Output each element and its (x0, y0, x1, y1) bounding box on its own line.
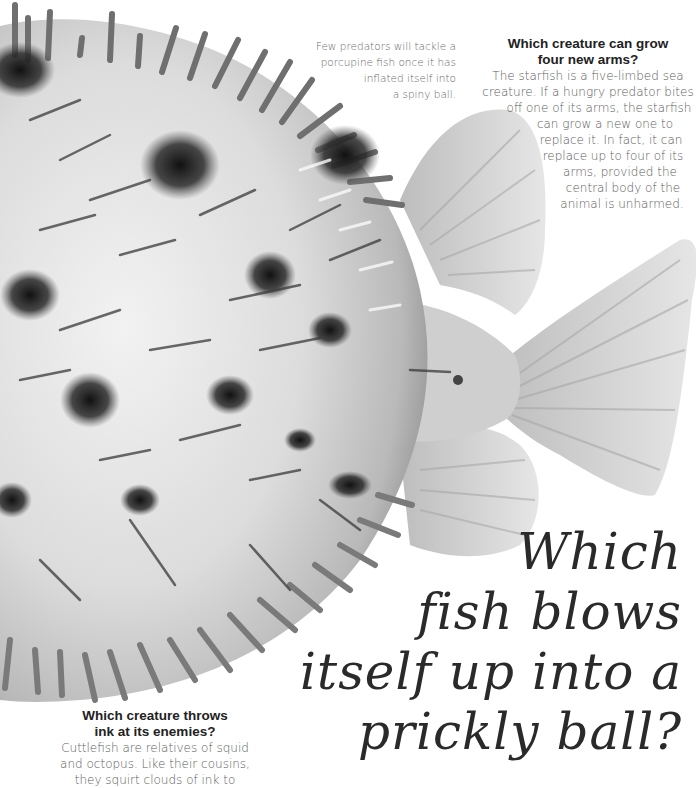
caption-line: porcupine fish once it has (300, 54, 456, 70)
caption-line: inflated itself into (300, 70, 456, 86)
body-line: central body of the (552, 180, 694, 196)
heading-line: ink at its enemies? (30, 724, 280, 740)
illustration-caption: Few predators will tackle a porcupine fi… (300, 38, 456, 102)
body-line: and octopus. Like their cousins, (30, 756, 280, 772)
caption-line: a spiny ball. (300, 86, 456, 102)
qa-cuttlefish-body: Cuttlefish are relatives of squid and oc… (30, 740, 280, 788)
heading-line: Which creature throws (30, 708, 280, 724)
body-line: off one of its arms, the starfish (502, 100, 696, 116)
main-title-line: Which (242, 522, 682, 582)
body-line: arms, provided the (550, 164, 690, 180)
main-title-line: itself up into a (242, 642, 682, 702)
body-line: can grow a new one to (520, 116, 690, 132)
qa-starfish: Which creature can grow four new arms? T… (480, 36, 696, 212)
heading-line: four new arms? (480, 52, 696, 68)
qa-cuttlefish: Which creature throws ink at its enemies… (30, 708, 280, 788)
body-line: they squirt clouds of ink to (30, 772, 280, 788)
main-title: Which fish blows itself up into a prickl… (242, 522, 682, 762)
qa-cuttlefish-heading: Which creature throws ink at its enemies… (30, 708, 280, 740)
body-line: Cuttlefish are relatives of squid (30, 740, 280, 756)
body-line: animal is unharmed. (550, 196, 694, 212)
qa-starfish-body: The starfish is a five-limbed sea creatu… (480, 68, 696, 212)
main-title-line: fish blows (242, 582, 682, 642)
caption-line: Few predators will tackle a (300, 38, 456, 54)
body-line: replace it. In fact, it can (532, 132, 690, 148)
body-line: replace up to four of its (532, 148, 694, 164)
main-title-line: prickly ball? (242, 702, 682, 762)
qa-starfish-heading: Which creature can grow four new arms? (480, 36, 696, 68)
body-line: creature. If a hungry predator bites (480, 84, 696, 100)
heading-line: Which creature can grow (480, 36, 696, 52)
body-line: The starfish is a five-limbed sea (480, 68, 696, 84)
